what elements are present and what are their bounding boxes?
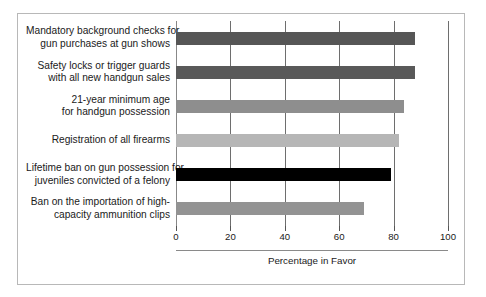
bar [176, 134, 399, 147]
category-label-line: Safety locks or trigger guards [26, 60, 170, 73]
figure-frame: Mandatory background checks forgun purch… [17, 13, 465, 285]
bar-row: Ban on the importation of high-capacity … [176, 192, 448, 226]
bar [176, 202, 364, 215]
tick-label-20: 20 [225, 231, 236, 242]
x-axis-ticks: 020406080100 [176, 230, 448, 246]
category-label-line: with all new handgun sales [26, 72, 170, 85]
bar [176, 32, 415, 45]
category-label-line: gun purchases at gun shows [26, 38, 170, 51]
tick-label-40: 40 [279, 231, 290, 242]
bar [176, 66, 415, 79]
bar [176, 100, 404, 113]
axis-title-rule [176, 250, 448, 251]
x-axis-title: Percentage in Favor [176, 255, 448, 266]
category-label-line: Mandatory background checks for [26, 25, 170, 38]
category-label: 21-year minimum agefor handgun possessio… [26, 94, 176, 119]
gridline-100 [448, 21, 449, 226]
category-label-line: Lifetime ban on gun possession for [26, 162, 170, 175]
bar-row: Mandatory background checks forgun purch… [176, 21, 448, 55]
plot-area: Mandatory background checks forgun purch… [176, 21, 448, 226]
category-label: Ban on the importation of high-capacity … [26, 196, 176, 221]
bar-row: Lifetime ban on gun possession forjuveni… [176, 158, 448, 192]
category-label-line: Ban on the importation of high- [26, 196, 170, 209]
bar-row: 21-year minimum agefor handgun possessio… [176, 89, 448, 123]
category-label-line: capacity ammunition clips [26, 209, 170, 222]
bar [176, 168, 391, 181]
category-label-line: for handgun possession [26, 106, 170, 119]
category-label-line: Registration of all firearms [26, 134, 170, 147]
bar-row: Safety locks or trigger guardswith all n… [176, 55, 448, 89]
bar-row: Registration of all firearms [176, 124, 448, 158]
category-label: Registration of all firearms [26, 134, 176, 147]
tick-label-0: 0 [173, 231, 178, 242]
tick-label-60: 60 [334, 231, 345, 242]
category-label-line: juveniles convicted of a felony [26, 175, 170, 188]
tick-label-100: 100 [440, 231, 456, 242]
category-label: Safety locks or trigger guardswith all n… [26, 60, 176, 85]
chart-screenshot: Mandatory background checks forgun purch… [0, 0, 486, 297]
category-label-line: 21-year minimum age [26, 94, 170, 107]
category-label: Lifetime ban on gun possession forjuveni… [26, 162, 176, 187]
category-label: Mandatory background checks forgun purch… [26, 25, 176, 50]
tick-label-80: 80 [388, 231, 399, 242]
